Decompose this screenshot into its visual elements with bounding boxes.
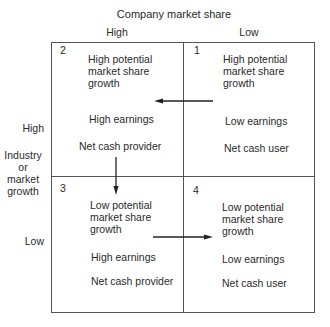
arrow-2-to-3-icon [114, 157, 119, 195]
arrow-3-to-4-icon [153, 235, 213, 240]
transition-arrows [0, 0, 330, 327]
arrow-1-to-2-icon [154, 99, 213, 104]
